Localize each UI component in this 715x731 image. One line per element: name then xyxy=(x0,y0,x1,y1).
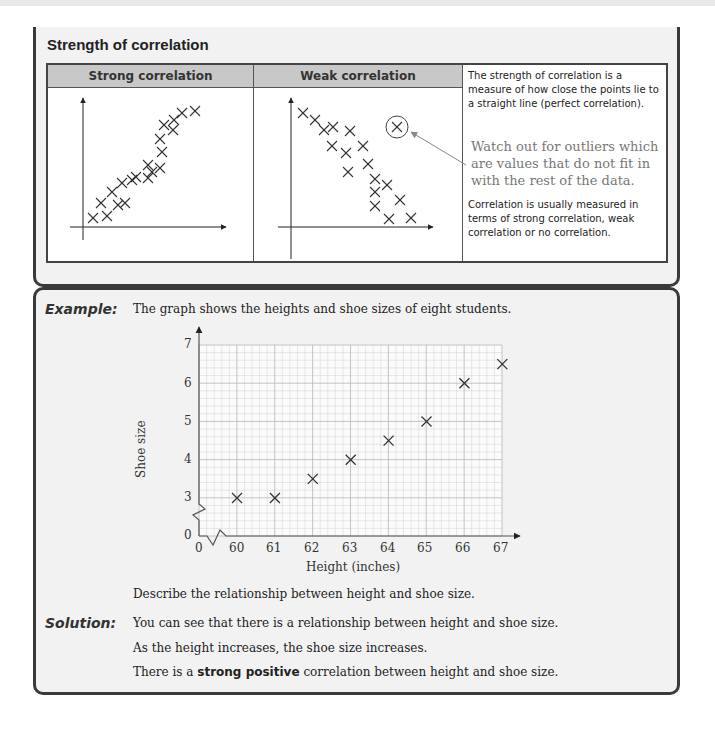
height-shoe-size-graph xyxy=(193,327,520,545)
outlier-pointer-arrow xyxy=(411,132,466,165)
weak-correlation-chart xyxy=(278,98,466,259)
charts-svg xyxy=(0,0,715,731)
strong-correlation-chart xyxy=(70,98,226,240)
